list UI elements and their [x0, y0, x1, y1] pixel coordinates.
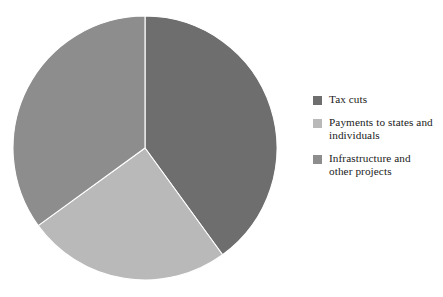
chart-legend: Tax cuts Payments to states and individu…	[313, 93, 441, 188]
legend-label-tax-cuts: Tax cuts	[329, 93, 367, 107]
legend-swatch-payments	[313, 119, 322, 128]
pie-svg	[10, 5, 295, 295]
legend-item-payments[interactable]: Payments to states and individuals	[313, 116, 441, 143]
pie-slices	[13, 16, 277, 280]
legend-label-infrastructure: Infrastructure and other projects	[329, 152, 411, 179]
pie-plot-area	[10, 5, 295, 295]
legend-item-tax-cuts[interactable]: Tax cuts	[313, 93, 441, 107]
legend-swatch-tax-cuts	[313, 96, 322, 105]
legend-item-infrastructure[interactable]: Infrastructure and other projects	[313, 152, 441, 179]
legend-label-payments: Payments to states and individuals	[329, 116, 433, 143]
pie-chart-figure: Tax cuts Payments to states and individu…	[0, 0, 443, 297]
legend-swatch-infrastructure	[313, 155, 322, 164]
